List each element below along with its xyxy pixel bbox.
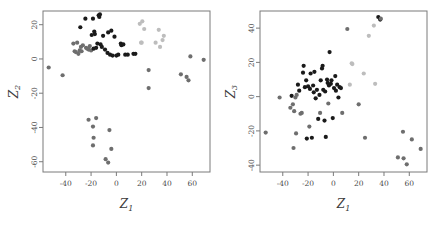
data-point [61,73,65,77]
scatter-panel-z1-z3: -40-20020406040200-20-40Z1Z3 [217,0,435,226]
data-point [147,86,151,90]
y-tick-label: 40 [248,23,257,33]
data-point [103,47,107,51]
data-point [312,70,316,74]
y-tick-label: -20 [31,87,40,99]
data-point [112,35,116,39]
x-tick-label: 40 [379,179,389,188]
x-tick-label: 20 [137,179,147,188]
data-point [340,111,344,115]
data-point [79,49,83,53]
plot-frame [260,11,427,172]
data-point [348,83,352,87]
data-point [367,34,371,38]
x-tick-label: 60 [188,179,198,188]
data-point [154,41,158,45]
data-point [301,71,305,75]
data-point [363,136,367,140]
data-point [362,71,366,75]
data-point [319,78,323,82]
data-point [419,147,423,151]
data-point [278,95,282,99]
y-tick-label: -40 [31,121,40,133]
y-tick-label: -40 [248,159,257,171]
data-point [308,87,312,91]
data-point [291,102,295,106]
data-point [94,46,98,50]
y-tick-label: -20 [248,125,257,137]
data-point [264,131,268,135]
data-point [121,42,125,46]
plot-canvas-left: -40-200204060200-20-40-60Z1Z2 [0,0,218,226]
data-point [126,53,130,57]
data-point [93,32,97,36]
data-point [186,78,190,82]
data-point [110,53,114,57]
data-point [158,45,162,49]
x-tick-label: -20 [302,179,314,188]
x-tick-label: -20 [85,179,97,188]
x-tick-label: 0 [114,179,119,188]
data-point [315,88,319,92]
x-tick-label: -40 [277,179,289,188]
data-point [311,83,315,87]
data-point [310,136,314,140]
data-point [294,131,298,135]
data-point [379,17,383,21]
scatter-plot-figure: -40-200204060200-20-40-60Z1Z2 -40-200204… [0,0,435,226]
data-point [78,25,82,29]
data-point [75,41,79,45]
data-point [116,53,120,57]
data-point [47,65,51,69]
data-point [133,52,137,56]
data-point [317,93,321,97]
data-point [202,58,206,62]
data-point [140,41,144,45]
x-tick-label: 60 [405,179,415,188]
data-point [71,41,75,45]
data-point [292,109,296,113]
data-point [401,156,405,160]
data-point [107,128,111,132]
data-point [305,137,309,141]
data-point [300,111,304,115]
data-point [157,28,161,32]
data-point [297,89,301,93]
data-point [98,12,102,16]
data-point [101,34,105,38]
data-point [106,160,110,164]
x-tick-label: -40 [60,179,72,188]
y-axis-title: Z2 [7,85,22,99]
plot-frame [43,11,210,172]
data-point [109,147,113,151]
y-axis-title: Z3 [224,85,239,99]
data-point [396,155,400,159]
data-point [327,50,331,54]
data-point [147,68,151,72]
data-point [86,118,90,122]
data-point [339,86,343,90]
data-point [321,64,325,68]
data-point [314,96,318,100]
data-point [91,143,95,147]
data-point [334,89,338,93]
data-point [83,17,87,21]
data-point [373,82,377,86]
data-point [94,116,98,120]
plot-canvas-right: -40-20020406040200-20-40Z1Z3 [217,0,435,226]
data-point [88,44,92,48]
data-point [91,125,95,129]
y-tick-label: 20 [31,20,40,30]
data-point [318,111,322,115]
data-point [91,17,95,21]
x-tick-label: 40 [162,179,172,188]
data-point [401,130,405,134]
scatter-panel-z1-z2: -40-200204060200-20-40-60Z1Z2 [0,0,218,226]
data-point [372,23,376,27]
data-point [405,162,409,166]
x-tick-label: 20 [354,179,364,188]
x-tick-label: 0 [331,179,336,188]
data-point [104,157,108,161]
data-point [109,29,113,33]
data-point [333,74,337,78]
